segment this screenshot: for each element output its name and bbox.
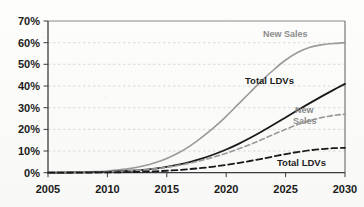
x-tick-label-2015: 2015: [155, 183, 179, 195]
series-annotations: New Sales Total LDVs New Sales Total LDV…: [245, 29, 326, 168]
y-tick-label-60: 60%: [18, 37, 40, 49]
y-tick-label-50: 50%: [18, 58, 40, 70]
x-tick-label-2025: 2025: [273, 183, 297, 195]
total-ldvs-dashed-label: Total LDVs: [277, 157, 326, 168]
new-sales-solid-label: New Sales: [263, 29, 308, 39]
y-tick-label-10: 10%: [18, 145, 40, 157]
gridlines: [48, 43, 345, 151]
y-tick-label-70: 70%: [18, 15, 40, 27]
total-ldvs-solid-label: Total LDVs: [245, 75, 294, 86]
x-tick-label-2030: 2030: [333, 183, 357, 195]
plot-frame: [48, 21, 345, 173]
new-sales-dashed-label-line1: New: [295, 105, 315, 115]
x-tick-label-2010: 2010: [95, 183, 119, 195]
y-tick-label-0: 0%: [24, 167, 40, 179]
x-tick-label-2005: 2005: [36, 183, 60, 195]
y-tick-label-30: 30%: [18, 102, 40, 114]
y-axis-ticks: [44, 21, 49, 173]
line-chart: 70% 60% 50% 40% 30% 20% 10% 0% 2005 2010…: [0, 0, 364, 207]
x-axis-ticks: [48, 173, 345, 178]
y-axis-tick-labels: 70% 60% 50% 40% 30% 20% 10% 0%: [18, 15, 40, 179]
y-tick-label-20: 20%: [18, 123, 40, 135]
x-tick-label-2020: 2020: [214, 183, 238, 195]
new-sales-dashed-label-line2: Sales: [293, 116, 317, 126]
chart-screenshot: 70% 60% 50% 40% 30% 20% 10% 0% 2005 2010…: [0, 0, 364, 207]
x-axis-tick-labels: 2005 2010 2015 2020 2025 2030: [36, 183, 357, 195]
y-tick-label-40: 40%: [18, 80, 40, 92]
